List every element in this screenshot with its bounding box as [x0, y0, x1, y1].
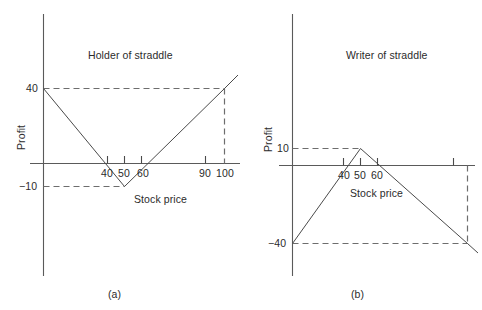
chart-b-xtick-40: 40	[338, 170, 350, 181]
chart-b-xtick-60: 60	[371, 170, 383, 181]
payoff-curve-b	[293, 149, 479, 254]
chart-a-xtick-40: 40	[101, 168, 113, 179]
chart-a-xtick-100: 100	[216, 168, 234, 179]
chart-a-xlabel: Stock price	[134, 194, 187, 205]
chart-b-ytick-10: 10	[277, 143, 289, 154]
chart-a-xtick-60: 60	[137, 168, 149, 179]
chart-b-ytick-neg40: −40	[268, 238, 286, 249]
chart-a-title: Holder of straddle	[88, 50, 173, 61]
chart-b-xtick-50: 50	[354, 170, 366, 181]
chart-a-canvas	[0, 0, 241, 310]
chart-a-xtick-90: 90	[199, 168, 211, 179]
chart-panel-b: Writer of straddle Profit Stock price 10…	[241, 0, 482, 310]
chart-a-ylabel: Profit	[16, 125, 27, 150]
chart-panel-a: Holder of straddle Profit Stock price 40…	[0, 0, 241, 310]
straddle-payoff-figure: Holder of straddle Profit Stock price 40…	[0, 0, 482, 310]
chart-b-ylabel: Profit	[263, 127, 274, 152]
chart-b-title: Writer of straddle	[346, 50, 428, 61]
chart-b-caption: (b)	[351, 289, 364, 300]
chart-a-ytick-neg10: −10	[19, 181, 37, 192]
chart-a-xtick-50: 50	[118, 168, 130, 179]
chart-a-ytick-40: 40	[26, 83, 38, 94]
chart-a-caption: (a)	[108, 289, 121, 300]
chart-b-xlabel: Stock price	[350, 188, 403, 199]
chart-b-canvas	[241, 0, 482, 310]
